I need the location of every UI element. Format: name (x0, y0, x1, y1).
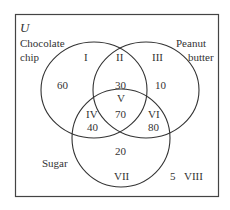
region-v-numeral: V (117, 92, 125, 104)
chocolate-chip-label-line2: chip (20, 51, 39, 63)
sugar-label: Sugar (42, 157, 68, 169)
region-i-numeral: I (84, 51, 88, 63)
region-vii-value: 20 (115, 145, 127, 157)
region-viii-value: 5 (170, 170, 176, 182)
region-ii-numeral: II (116, 51, 124, 63)
venn-diagram: U Chocolate chip Peanut butter Sugar I 6… (0, 0, 230, 210)
peanut-butter-label-line1: Peanut (176, 37, 206, 49)
region-v-value: 70 (115, 108, 127, 120)
region-viii-numeral: VIII (184, 170, 203, 182)
region-i-value: 60 (57, 79, 69, 91)
region-vi-numeral: VI (148, 108, 160, 120)
region-iv-value: 40 (87, 121, 99, 133)
region-iv-numeral: IV (86, 108, 98, 120)
region-vii-numeral: VII (114, 170, 130, 182)
region-vi-value: 80 (148, 121, 160, 133)
universe-label: U (20, 20, 31, 35)
chocolate-chip-label-line1: Chocolate (20, 37, 65, 49)
region-ii-value: 30 (115, 79, 127, 91)
region-iii-value: 10 (155, 79, 167, 91)
peanut-butter-label-line2: butter (188, 51, 214, 63)
region-iii-numeral: III (152, 51, 163, 63)
